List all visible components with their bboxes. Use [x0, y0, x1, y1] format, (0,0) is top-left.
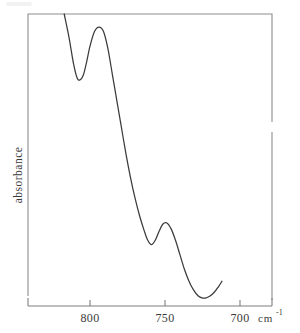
scan-artifact	[6, 2, 32, 6]
spectrum-figure: 800 750 700 cm -1 absorbance	[0, 0, 300, 333]
spectrum-plot: 800 750 700 cm -1 absorbance	[0, 0, 300, 333]
spectrum-curve	[64, 14, 222, 298]
x-tick-label-800: 800	[80, 311, 99, 325]
x-axis-unit-superscript: -1	[276, 308, 283, 317]
y-axis-title: absorbance	[12, 147, 24, 204]
x-tick-label-750: 750	[155, 311, 174, 325]
x-tick-label-700: 700	[230, 311, 249, 325]
x-axis-unit-label: cm	[258, 312, 273, 324]
plot-frame-upper	[28, 14, 272, 296]
